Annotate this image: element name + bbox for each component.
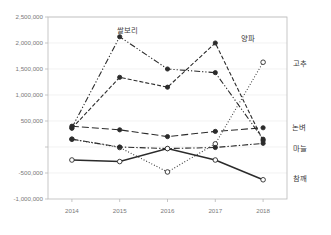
- x-tick-label: 2015: [113, 207, 127, 214]
- line-chart: 2,500,0002,000,0001,500,0001,000,000500,…: [0, 0, 331, 235]
- data-point: [165, 85, 169, 89]
- series-label-양파: 양파: [241, 34, 255, 43]
- data-point: [118, 75, 122, 79]
- y-tick-label: -500,000: [19, 169, 44, 176]
- data-point: [213, 71, 217, 75]
- x-tick-label: 2018: [256, 207, 270, 214]
- y-tick-label: 1,500,000: [15, 65, 43, 72]
- series-label-쌀보리: 쌀보리: [117, 26, 138, 35]
- series-참깨: [70, 146, 266, 182]
- data-point: [165, 67, 169, 71]
- data-point: [118, 128, 122, 132]
- series-label-참깨: 참깨: [293, 174, 307, 183]
- data-point: [213, 129, 217, 133]
- data-point: [118, 35, 122, 39]
- data-point: [117, 159, 122, 164]
- y-tick-label: -1,000,000: [13, 195, 43, 202]
- data-point: [165, 135, 169, 139]
- data-point: [213, 158, 218, 163]
- data-point: [261, 126, 265, 130]
- x-tick-label: 2016: [161, 207, 175, 214]
- series-논벼: [70, 124, 265, 139]
- series-label-고추: 고추: [293, 59, 307, 68]
- data-point: [261, 177, 266, 182]
- data-point: [118, 145, 122, 149]
- series-line: [72, 62, 263, 172]
- x-tick-label: 2014: [65, 207, 79, 214]
- data-point: [70, 124, 74, 128]
- data-point: [213, 145, 217, 149]
- data-point: [261, 60, 266, 65]
- data-point: [261, 141, 265, 145]
- data-point: [165, 146, 170, 151]
- series-line: [72, 149, 263, 180]
- series-line: [72, 43, 263, 141]
- series-고추: [70, 60, 266, 174]
- data-point: [70, 158, 75, 163]
- y-tick-label: 2,000,000: [15, 39, 43, 46]
- series-양파: [70, 41, 265, 143]
- chart-canvas: 2,500,0002,000,0001,500,0001,000,000500,…: [0, 0, 331, 235]
- y-tick-label: 500,000: [21, 117, 44, 124]
- series-label-논벼: 논벼: [292, 123, 306, 132]
- data-point: [70, 137, 74, 141]
- data-point: [165, 170, 170, 175]
- series-label-마늘: 마늘: [293, 144, 307, 153]
- data-point: [213, 41, 217, 45]
- x-tick-label: 2017: [208, 207, 222, 214]
- y-tick-label: 1,000,000: [15, 91, 43, 98]
- y-tick-label: 2,500,000: [15, 13, 43, 20]
